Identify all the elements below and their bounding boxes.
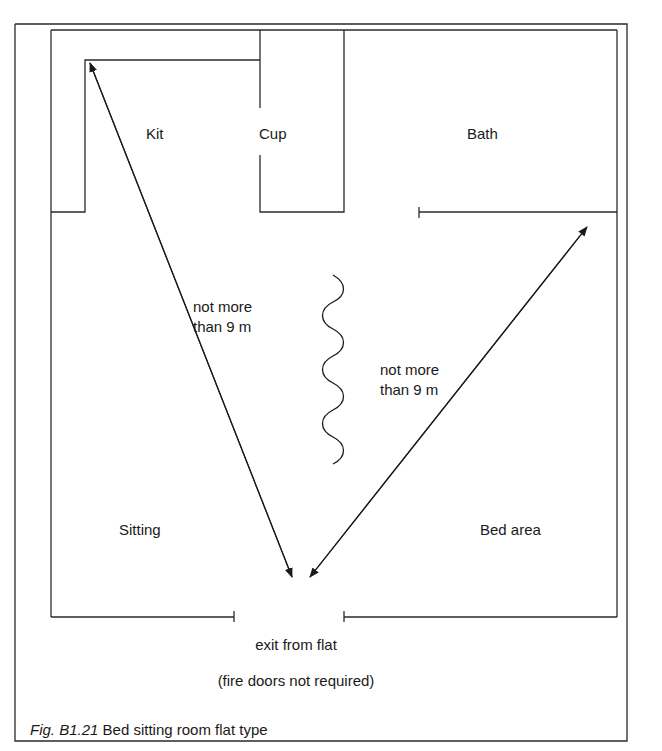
exit-note: (fire doors not required) <box>218 671 375 690</box>
figure-number: Fig. B1.21 <box>30 721 98 738</box>
distance-label-left-2: than 9 m <box>193 317 251 336</box>
exit-label: exit from flat <box>255 635 337 654</box>
wavy-partition-symbol <box>323 275 344 464</box>
room-label-bed-area: Bed area <box>480 520 541 539</box>
room-label-kitchen: Kit <box>146 124 164 143</box>
room-label-bath: Bath <box>467 124 498 143</box>
figure-title: Bed sitting room flat type <box>103 721 268 738</box>
distance-label-left-1: not more <box>193 297 252 316</box>
room-label-sitting: Sitting <box>119 520 161 539</box>
room-label-cupboard: Cup <box>259 124 287 143</box>
distance-label-right-1: not more <box>380 360 439 379</box>
distance-label-right-2: than 9 m <box>380 380 438 399</box>
figure-caption: Fig. B1.21 Bed sitting room flat type <box>30 721 268 738</box>
figure-frame-border <box>15 24 627 741</box>
